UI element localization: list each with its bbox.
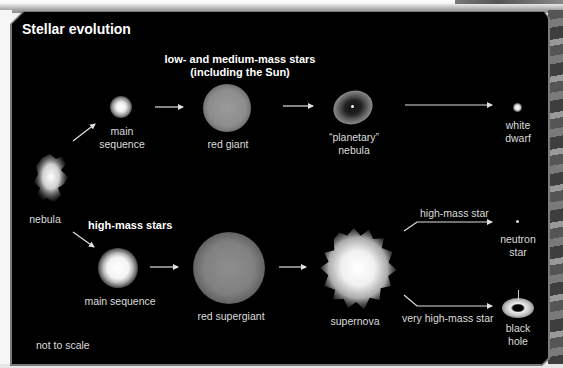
- very-high-mass-star-condition: very high-mass star: [402, 312, 512, 325]
- supernova-label: supernova: [320, 315, 390, 328]
- white-dwarf-label: white dwarf: [497, 119, 539, 145]
- black-hole-jet: [518, 290, 519, 302]
- white-dwarf-star: [513, 103, 522, 112]
- high-mass-heading: high-mass stars: [88, 219, 188, 232]
- nebula-image: [28, 150, 78, 210]
- supernova-image: [316, 224, 400, 312]
- red-supergiant-label: red supergiant: [188, 310, 274, 323]
- black-hole-label: black hole: [498, 322, 538, 348]
- label-line: white: [497, 119, 539, 132]
- label-line: main: [96, 125, 148, 138]
- heading-line: (including the Sun): [140, 66, 340, 79]
- label-line: sequence: [96, 138, 148, 151]
- main-sequence-label: main sequence: [96, 125, 148, 151]
- planetary-nebula-label: “planetary” nebula: [323, 131, 385, 157]
- diagram-title: Stellar evolution: [22, 21, 131, 37]
- neutron-star: [516, 220, 519, 223]
- label-line: hole: [498, 335, 538, 348]
- not-to-scale-note: not to scale: [36, 339, 106, 352]
- planetary-nebula-core: [351, 105, 354, 108]
- label-line: “planetary”: [323, 131, 385, 144]
- massive-main-sequence-star: [98, 248, 138, 288]
- red-giant-star: [203, 84, 251, 132]
- red-giant-label: red giant: [197, 138, 259, 151]
- right-frame-edge: [548, 10, 563, 368]
- main-sequence-star: [110, 96, 132, 118]
- massive-main-sequence-label: main sequence: [80, 295, 160, 308]
- label-line: neutron: [496, 233, 540, 246]
- high-mass-star-condition: high-mass star: [420, 207, 520, 220]
- label-line: nebula: [323, 144, 385, 157]
- nebula-label: nebula: [20, 213, 70, 226]
- frame-ornament: [455, 0, 563, 4]
- low-medium-mass-heading: low- and medium-mass stars (including th…: [140, 53, 340, 79]
- neutron-star-label: neutron star: [496, 233, 540, 259]
- label-line: star: [496, 246, 540, 259]
- label-line: dwarf: [497, 132, 539, 145]
- red-supergiant-star: [193, 232, 265, 304]
- heading-line: low- and medium-mass stars: [140, 53, 340, 66]
- label-line: black: [498, 322, 538, 335]
